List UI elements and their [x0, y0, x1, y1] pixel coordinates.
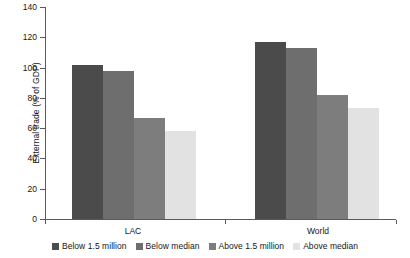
- legend-swatch-icon: [136, 243, 143, 250]
- bar: [72, 65, 103, 219]
- legend-item[interactable]: Above 1.5 million: [209, 241, 285, 251]
- legend-swatch-icon: [52, 243, 59, 250]
- x-tick-mark: [225, 220, 226, 224]
- legend-label: Above 1.5 million: [219, 241, 285, 251]
- legend-swatch-icon: [293, 243, 300, 250]
- bar: [255, 42, 286, 219]
- y-tick-label: 60: [8, 123, 37, 133]
- x-axis-line: [45, 219, 396, 220]
- plot-area: [45, 7, 395, 219]
- chart-legend: Below 1.5 millionBelow medianAbove 1.5 m…: [0, 241, 410, 251]
- legend-swatch-icon: [209, 243, 216, 250]
- legend-label: Above median: [303, 241, 358, 251]
- y-tick-label: 100: [8, 63, 37, 73]
- y-tick-label: 40: [8, 153, 37, 163]
- bar: [317, 95, 348, 219]
- y-tick-label: 80: [8, 93, 37, 103]
- y-tick-label: 20: [8, 184, 37, 194]
- legend-label: Below median: [146, 241, 200, 251]
- y-tick-label: 120: [8, 32, 37, 42]
- x-category-label: World: [307, 226, 329, 236]
- x-category-label: LAC: [125, 226, 142, 236]
- legend-item[interactable]: Above median: [293, 241, 358, 251]
- legend-label: Below 1.5 million: [62, 241, 127, 251]
- legend-item[interactable]: Below 1.5 million: [52, 241, 127, 251]
- bar: [348, 108, 379, 219]
- bar: [134, 118, 165, 219]
- x-tick-mark: [45, 220, 46, 224]
- y-tick-label: 140: [8, 2, 37, 12]
- y-tick-label: 0: [8, 214, 37, 224]
- bar: [165, 131, 196, 219]
- bar-chart: External trade (% of GDP) 02040608010012…: [0, 0, 410, 258]
- bar: [286, 48, 317, 219]
- bar: [103, 71, 134, 219]
- legend-item[interactable]: Below median: [136, 241, 200, 251]
- x-tick-mark: [396, 220, 397, 224]
